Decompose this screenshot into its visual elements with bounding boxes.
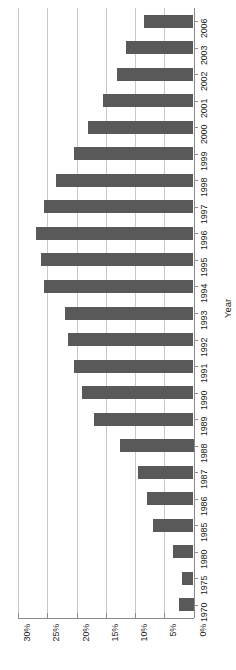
category-tick-mark <box>194 21 198 22</box>
bar <box>74 360 194 373</box>
category-tick-mark <box>194 605 198 606</box>
category-tick-mark <box>194 499 198 500</box>
bar <box>144 15 194 28</box>
category-tick-mark <box>194 74 198 75</box>
category-tick-mark <box>194 578 198 579</box>
category-tick-mark <box>194 472 198 473</box>
category-tick-mark <box>194 552 198 553</box>
category-tick-mark <box>194 207 198 208</box>
gridline <box>18 8 19 618</box>
bar <box>117 68 193 81</box>
category-tick-mark <box>194 393 198 394</box>
category-tick-mark <box>194 419 198 420</box>
value-tick-label: 10% <box>139 624 149 664</box>
category-tick-label: 1970 <box>199 588 209 622</box>
bar <box>44 280 193 293</box>
bar <box>41 253 193 266</box>
bar <box>120 439 193 452</box>
gridline <box>47 8 48 618</box>
value-tick-mark <box>77 613 78 618</box>
bar <box>147 492 194 505</box>
category-tick-mark <box>194 525 198 526</box>
bar <box>182 572 194 585</box>
value-tick-mark <box>106 613 107 618</box>
value-tick-label: 0% <box>198 624 208 664</box>
value-tick-mark <box>18 613 19 618</box>
bar <box>65 307 194 320</box>
bar <box>44 200 193 213</box>
bar <box>173 545 193 558</box>
category-tick-mark <box>194 260 198 261</box>
bar <box>68 333 194 346</box>
value-tick-label: 25% <box>51 624 61 664</box>
category-tick-mark <box>194 313 198 314</box>
category-tick-mark <box>194 286 198 287</box>
category-tick-mark <box>194 180 198 181</box>
bar <box>179 598 194 611</box>
bar <box>153 519 194 532</box>
bar <box>126 41 193 54</box>
bar <box>88 121 193 134</box>
category-tick-mark <box>194 233 198 234</box>
bar <box>138 466 194 479</box>
category-tick-mark <box>194 101 198 102</box>
category-tick-mark <box>194 366 198 367</box>
category-axis-title: Year <box>222 299 233 318</box>
category-tick-mark <box>194 154 198 155</box>
bar <box>74 147 194 160</box>
value-axis-line <box>18 618 194 619</box>
category-tick-mark <box>194 127 198 128</box>
value-tick-mark <box>47 613 48 618</box>
value-tick-mark <box>135 613 136 618</box>
value-tick-mark <box>194 613 195 618</box>
category-tick-mark <box>194 340 198 341</box>
bar <box>56 174 193 187</box>
bar <box>82 386 193 399</box>
value-tick-label: 20% <box>81 624 91 664</box>
category-tick-mark <box>194 48 198 49</box>
value-tick-mark <box>164 613 165 618</box>
bar <box>94 413 193 426</box>
bar-chart: 30%25%20%15%10%5%0% 20062003200220012000… <box>0 0 236 670</box>
value-tick-label: 15% <box>110 624 120 664</box>
bar <box>36 227 194 240</box>
plot-area <box>18 8 194 618</box>
category-tick-mark <box>194 446 198 447</box>
value-tick-label: 30% <box>22 624 32 664</box>
value-tick-label: 5% <box>168 624 178 664</box>
bar <box>103 94 194 107</box>
